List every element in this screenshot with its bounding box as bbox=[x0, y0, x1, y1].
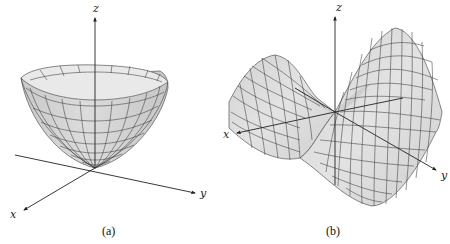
panel-b: z x y (b) bbox=[223, 1, 448, 238]
z-axis-label-a: z bbox=[92, 2, 99, 15]
x-axis-a bbox=[24, 168, 95, 210]
caption-b: (b) bbox=[326, 224, 340, 238]
z-axis-label-b: z bbox=[335, 1, 342, 14]
y-axis-label-a: y bbox=[199, 187, 207, 200]
x-axis-label-a: x bbox=[10, 208, 17, 221]
y-axis-label-b: y bbox=[440, 169, 448, 182]
figure-canvas: z y x (a) bbox=[0, 0, 450, 244]
caption-a: (a) bbox=[102, 224, 115, 238]
x-axis-label-b: x bbox=[223, 128, 230, 141]
saddle-surface bbox=[229, 28, 442, 206]
panel-a: z y x (a) bbox=[10, 2, 207, 238]
paraboloid-surface bbox=[21, 65, 168, 168]
